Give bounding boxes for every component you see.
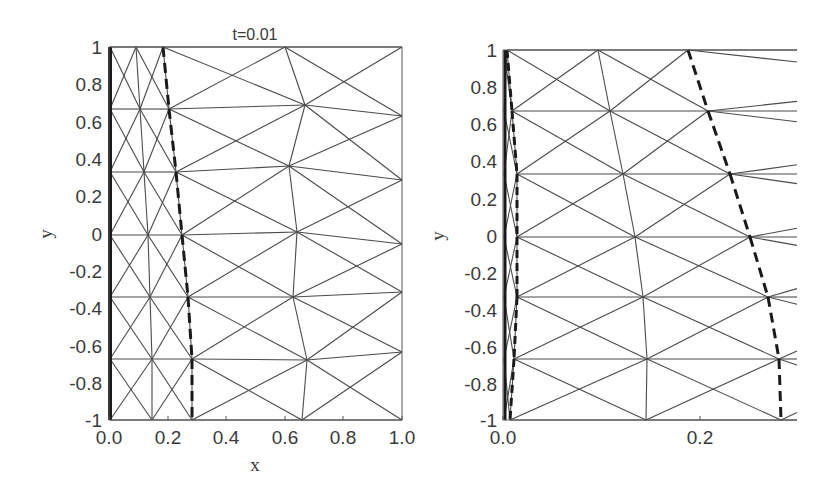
y-tick-label: -0.6 <box>464 337 497 358</box>
mesh-edge <box>140 47 163 109</box>
y-tick-label: 0.2 <box>76 186 102 207</box>
x-tick-label: 1.0 <box>389 427 415 448</box>
mesh-edge <box>307 360 402 420</box>
y-tick-label: 0.8 <box>76 74 102 95</box>
mesh-edge <box>307 352 402 360</box>
y-tick-label: -0.6 <box>69 336 102 357</box>
mesh-edge <box>708 111 797 122</box>
left-mesh-edges <box>110 47 402 420</box>
mesh-edge <box>307 292 402 360</box>
mesh-edge <box>517 174 623 237</box>
mesh-edge <box>646 359 647 420</box>
left-plot-title: t=0.01 <box>233 26 278 43</box>
mesh-edge <box>169 105 305 109</box>
mesh-edge <box>623 111 708 174</box>
mesh-edge <box>305 105 402 116</box>
mesh-edge <box>507 50 610 111</box>
mesh-edge <box>140 109 144 172</box>
mesh-edge <box>289 166 297 232</box>
y-tick-label: 0.6 <box>76 112 102 133</box>
y-tick-label: -0.2 <box>464 263 497 284</box>
y-tick-label: -0.4 <box>464 300 497 321</box>
mesh-edge <box>610 50 688 111</box>
mesh-edge <box>289 105 305 166</box>
x-tick-label: 0.6 <box>272 427 298 448</box>
mesh-edge <box>148 172 176 235</box>
mesh-edge <box>635 237 768 297</box>
x-tick-label: 0.2 <box>155 427 181 448</box>
y-tick-label: 0.4 <box>76 149 103 170</box>
right-dashed-front <box>505 50 781 420</box>
mesh-edge <box>110 47 140 109</box>
dashed-front-segment <box>750 237 768 297</box>
mesh-edge <box>730 165 797 174</box>
x-tick-label: 0.2 <box>687 427 713 448</box>
mesh-edge <box>144 109 169 172</box>
mesh-edge <box>643 297 779 359</box>
x-tick-label: 0.4 <box>213 427 240 448</box>
mesh-edge <box>192 297 293 359</box>
mesh-edge <box>517 297 647 359</box>
mesh-edge <box>293 244 402 297</box>
x-tick-label: 0.8 <box>330 427 356 448</box>
mesh-edge <box>150 235 182 297</box>
mesh-edge <box>781 412 797 420</box>
mesh-edge <box>176 172 297 232</box>
mesh-edge <box>169 109 289 166</box>
mesh-edge <box>302 360 307 420</box>
mesh-edge <box>293 297 307 360</box>
y-tick-label: 1 <box>91 37 102 58</box>
right-y-axis-label: y <box>427 231 448 241</box>
mesh-edge <box>768 297 797 304</box>
y-tick-label: 0 <box>91 224 102 245</box>
mesh-edge <box>293 292 402 297</box>
mesh-edge <box>730 174 797 184</box>
mesh-edge <box>305 47 402 105</box>
mesh-edge <box>285 47 305 105</box>
mesh-edge <box>610 111 730 174</box>
right-axes: 0.00.210.80.60.40.20-0.2-0.4-0.6-0.8-1 <box>464 40 797 448</box>
mesh-edge <box>643 297 647 359</box>
mesh-edge <box>635 237 643 297</box>
y-tick-label: -0.2 <box>69 261 102 282</box>
mesh-edge <box>514 297 643 359</box>
mesh-edge <box>779 359 797 365</box>
mesh-edge <box>289 116 402 166</box>
mesh-edge <box>512 50 598 111</box>
mesh-edge <box>688 50 797 62</box>
mesh-edge <box>150 297 192 359</box>
mesh-edge <box>144 172 148 235</box>
mesh-edge <box>182 166 289 235</box>
mesh-edge <box>163 47 305 105</box>
left-y-axis-label: y <box>35 229 56 239</box>
y-tick-label: -1 <box>85 410 102 431</box>
mesh-edge <box>779 351 797 359</box>
mesh-edge <box>293 232 297 297</box>
y-tick-label: 0 <box>486 226 497 247</box>
mesh-edge <box>297 232 402 244</box>
mesh-edge <box>176 166 289 172</box>
mesh-edge <box>297 232 402 292</box>
mesh-edge <box>188 232 297 297</box>
dashed-front-segment <box>768 297 779 359</box>
mesh-edge <box>293 297 402 352</box>
y-tick-label: 0.8 <box>471 77 497 98</box>
dashed-front-segment <box>730 174 750 237</box>
y-tick-label: -0.4 <box>69 298 102 319</box>
dashed-front-segment <box>779 359 781 420</box>
mesh-edge <box>512 111 623 174</box>
mesh-edge <box>623 174 750 237</box>
left-x-axis-label: x <box>250 454 260 475</box>
mesh-edge <box>148 235 150 297</box>
mesh-edge <box>517 174 635 237</box>
mesh-edge <box>305 105 402 180</box>
right-mesh-edges <box>504 50 797 420</box>
y-tick-label: -1 <box>480 410 497 431</box>
figure: 0.00.20.40.60.81.010.80.60.40.20-0.2-0.4… <box>0 0 836 484</box>
mesh-edge <box>750 228 797 237</box>
mesh-edge <box>517 111 610 174</box>
mesh-edge <box>750 237 797 245</box>
y-tick-label: 1 <box>486 40 497 61</box>
mesh-edge <box>623 174 635 237</box>
y-tick-label: -0.8 <box>464 374 497 395</box>
